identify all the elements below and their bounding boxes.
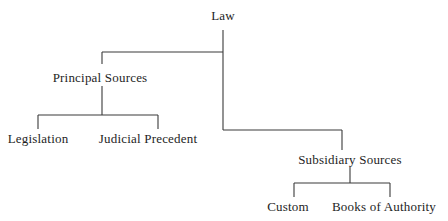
- node-subsidiary-sources: Subsidiary Sources: [298, 153, 402, 166]
- node-custom: Custom: [267, 200, 309, 213]
- node-judicial-precedent: Judicial Precedent: [99, 132, 198, 145]
- node-legislation: Legislation: [8, 132, 69, 145]
- connector-lines: [0, 0, 448, 221]
- law-sources-tree-diagram: Law Principal Sources Legislation Judici…: [0, 0, 448, 221]
- node-principal-sources: Principal Sources: [53, 71, 148, 84]
- node-books-of-authority: Books of Authority: [332, 200, 436, 213]
- node-law: Law: [211, 9, 235, 22]
